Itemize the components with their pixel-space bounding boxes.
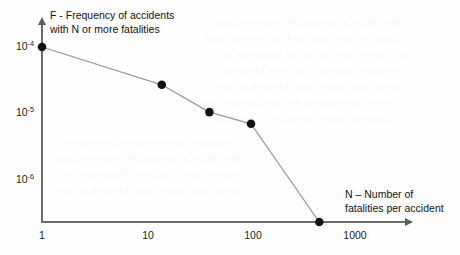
- data-point: [205, 108, 214, 117]
- data-point: [38, 43, 47, 52]
- data-series-layer: [0, 0, 460, 255]
- data-point: [315, 218, 324, 227]
- data-point: [247, 120, 256, 129]
- data-point: [158, 81, 167, 90]
- fn-curve-line: [42, 47, 319, 222]
- fn-curve-markers: [38, 43, 324, 227]
- plot-area: 10-4 10-5 10-6 1 10 100 1000 F - Frequen…: [0, 0, 460, 255]
- chart-figure: the risk of a catastrophic failure withi…: [0, 0, 460, 255]
